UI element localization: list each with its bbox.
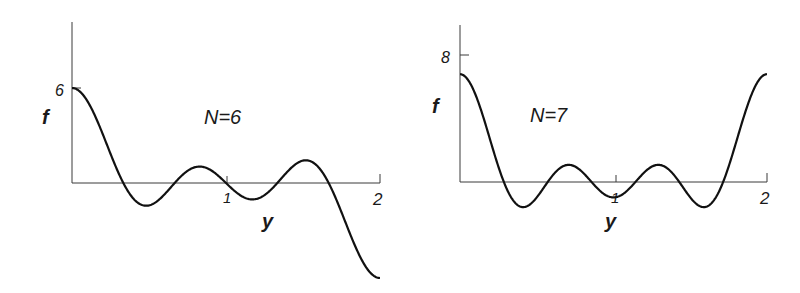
- x-axis-label: y: [604, 210, 617, 232]
- x-axis-label: y: [261, 210, 274, 232]
- x-tick-label-2: 2: [759, 189, 770, 208]
- figure: 6 f N=6 1 2 y 8 f N=7 1 2 y: [0, 0, 800, 293]
- plot-n6: 6 f N=6 1 2 y: [42, 22, 383, 278]
- plot-title: N=6: [204, 106, 242, 128]
- x-tick-label-2: 2: [372, 190, 383, 209]
- plot-title: N=7: [530, 104, 568, 126]
- x-tick-label-1: 1: [223, 189, 231, 206]
- curve-n7: [460, 74, 767, 207]
- y-axis-label: f: [42, 106, 51, 128]
- plot-n7: 8 f N=7 1 2 y: [432, 25, 770, 232]
- y-tick-label: 6: [55, 82, 64, 99]
- y-tick-label: 8: [441, 49, 450, 66]
- y-axis-label: f: [432, 95, 441, 117]
